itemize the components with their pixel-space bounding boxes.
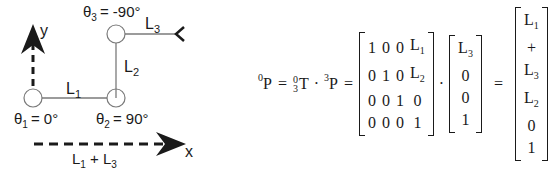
local-point: 3P <box>324 74 338 93</box>
link-1-label: L1 <box>66 80 81 100</box>
joint-1-angle-label: θ1= 0° <box>14 110 58 130</box>
input-vector: L3 0 0 1 <box>449 35 482 133</box>
output-vector: L1 + L3 L2 0 1 <box>515 7 548 162</box>
dot-operator: · <box>314 75 319 93</box>
joint-3-circle <box>107 25 125 43</box>
transform-symbol: T <box>299 75 309 93</box>
joint-3-angle-label: θ3= -90° <box>83 3 141 23</box>
gripper-icon <box>176 27 184 41</box>
link-3-label: L3 <box>145 15 160 35</box>
transform-matrix: 100L1 010L2 0010 0001 <box>359 32 434 136</box>
y-axis-label: y <box>40 22 48 39</box>
joint-1-circle <box>24 89 42 107</box>
joint-2-angle-label: θ2= 90° <box>96 110 149 130</box>
equals-sign: = <box>494 75 503 93</box>
equals-sign: = <box>278 75 287 93</box>
transform-frames: 03 <box>293 75 298 93</box>
x-axis-label: x <box>185 143 193 160</box>
forward-kinematics-equation: 0P = 03T · 3P = 100L1 010L2 0010 0001 · … <box>258 34 548 134</box>
reach-label: L1 + L3 <box>72 150 117 170</box>
link-2-label: L2 <box>124 58 139 78</box>
equals-sign: = <box>344 75 353 93</box>
lhs-point: 0P <box>258 74 272 93</box>
dot-operator: · <box>439 75 444 93</box>
robot-arm-diagram: y x L1 L2 L3 θ1= 0° θ2= 90° θ3= -90° L1 … <box>0 0 250 173</box>
